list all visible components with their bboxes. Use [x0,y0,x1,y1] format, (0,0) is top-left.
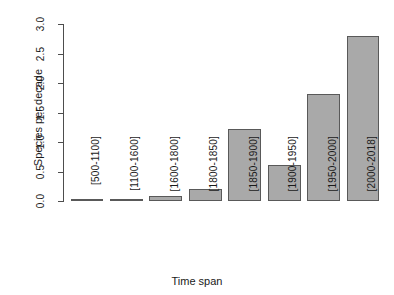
x-axis-tick-label: [1100-1600] [130,136,140,206]
x-axis-title: Time span [0,276,394,287]
x-axis-tick-label: [1800-1850] [209,136,219,206]
y-axis-tick [58,83,63,84]
y-axis-tick [58,172,63,173]
y-axis-tick [58,142,63,143]
y-axis-tick [58,113,63,114]
y-axis-tick [58,24,63,25]
y-axis-tick [58,54,63,55]
x-axis-tick-label: [1950-2000] [328,136,338,206]
x-axis-tick-label: [1850-1900] [249,136,259,206]
bar-chart: 0.00.51.01.52.02.53.0 Species per decade… [0,0,394,295]
x-axis-tick-label: [1600-1800] [170,136,180,206]
y-axis-title: Species per decade [33,18,44,218]
x-axis-tick-label: [1900-1950] [288,136,298,206]
x-axis-tick-label: [2000-2018] [367,136,377,206]
y-axis-tick [58,201,63,202]
x-axis-tick-label: [500-1100] [91,136,101,206]
